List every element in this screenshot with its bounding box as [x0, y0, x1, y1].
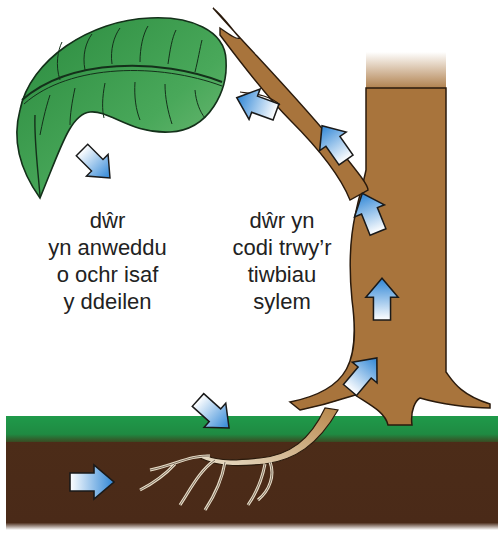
label-xylem-rise: dŵr yn codi trwy’r tiwbiau sylem [212, 207, 352, 315]
transpiration-diagram: dŵr yn anweddu o ochr isaf y ddeilen dŵr… [0, 0, 504, 537]
leaf [17, 18, 226, 198]
label-line: yn anweddu [20, 234, 195, 261]
label-line: tiwbiau [212, 261, 352, 288]
label-leaf-evaporation: dŵr yn anweddu o ochr isaf y ddeilen [20, 207, 195, 315]
grass [6, 416, 498, 442]
arrow-leaf-out-icon [71, 139, 121, 189]
label-line: sylem [212, 288, 352, 315]
label-line: codi trwy’r [212, 234, 352, 261]
branch [213, 8, 368, 200]
label-line: y ddeilen [20, 288, 195, 315]
label-line: dŵr [20, 207, 195, 234]
label-line: dŵr yn [212, 207, 352, 234]
label-line: o ochr isaf [20, 261, 195, 288]
